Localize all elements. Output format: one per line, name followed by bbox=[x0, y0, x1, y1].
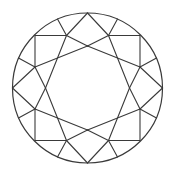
background bbox=[0, 0, 174, 176]
diamond-facet-diagram bbox=[0, 0, 174, 176]
